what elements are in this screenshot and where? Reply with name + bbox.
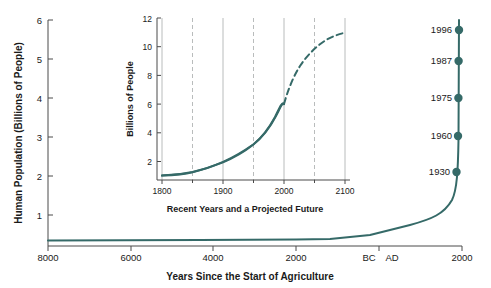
inset-y-tick-8: 8 bbox=[147, 71, 152, 81]
milestone-dot-1996 bbox=[455, 26, 463, 34]
inset-caption: Recent Years and a Projected Future bbox=[167, 204, 323, 214]
inset-y-tick-2: 2 bbox=[147, 157, 152, 167]
inset-chart: 12 10 8 6 4 2 Billions of People 1800 19… bbox=[125, 14, 355, 215]
main-y-tick-5: 5 bbox=[37, 54, 42, 65]
milestone-label-1987: 1987 bbox=[431, 55, 452, 66]
main-y-ticks bbox=[48, 20, 53, 215]
main-x-axis-title: Years Since the Start of Agriculture bbox=[166, 271, 334, 282]
main-x-tick-8000bc: 8000 bbox=[37, 252, 58, 263]
milestone-label-1960: 1960 bbox=[431, 130, 452, 141]
milestone-dot-1960 bbox=[454, 132, 462, 140]
milestone-dot-1975 bbox=[454, 94, 462, 102]
inset-y-tick-10: 10 bbox=[143, 42, 153, 52]
main-y-tick-1: 1 bbox=[37, 210, 42, 221]
milestone-label-1996: 1996 bbox=[431, 24, 452, 35]
population-growth-figure: 6 5 4 3 2 1 Human Population (Billions o… bbox=[0, 0, 491, 288]
milestone-label-1975: 1975 bbox=[431, 92, 452, 103]
main-y-axis-title: Human Population (Billions of People) bbox=[13, 42, 24, 224]
milestone-label-1930: 1930 bbox=[429, 166, 450, 177]
main-chart: 6 5 4 3 2 1 Human Population (Billions o… bbox=[13, 15, 473, 282]
main-y-tick-2: 2 bbox=[37, 171, 42, 182]
milestone-dot-1987 bbox=[454, 57, 462, 65]
main-x-tick-4000bc: 4000 bbox=[202, 252, 223, 263]
inset-x-tick-2100: 2100 bbox=[336, 186, 355, 196]
inset-y-axis-title: Billions of People bbox=[125, 61, 135, 137]
inset-y-ticks bbox=[157, 18, 161, 162]
inset-x-ticks bbox=[162, 180, 345, 184]
main-x-tick-ad: AD bbox=[385, 252, 398, 263]
inset-x-tick-1800: 1800 bbox=[153, 186, 172, 196]
inset-y-tick-12: 12 bbox=[143, 14, 153, 24]
main-x-tick-2000bc: 2000 bbox=[285, 252, 306, 263]
main-x-tick-bc: BC bbox=[362, 252, 375, 263]
main-x-ticks bbox=[48, 246, 462, 251]
inset-x-tick-2000: 2000 bbox=[275, 186, 294, 196]
main-y-tick-4: 4 bbox=[37, 93, 42, 104]
inset-y-tick-6: 6 bbox=[147, 100, 152, 110]
inset-y-tick-4: 4 bbox=[147, 128, 152, 138]
chart-svg: 6 5 4 3 2 1 Human Population (Billions o… bbox=[0, 0, 491, 288]
main-y-tick-6: 6 bbox=[37, 15, 42, 26]
inset-x-tick-1900: 1900 bbox=[214, 186, 233, 196]
milestone-dot-1930 bbox=[452, 168, 460, 176]
main-x-tick-2000ad: 2000 bbox=[451, 252, 472, 263]
main-x-tick-6000bc: 6000 bbox=[120, 252, 141, 263]
main-y-tick-3: 3 bbox=[37, 132, 42, 143]
